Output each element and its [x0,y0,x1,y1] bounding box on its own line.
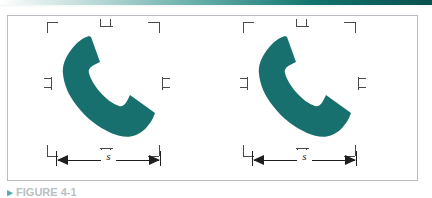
page-top-rule-shadow [0,5,432,8]
registration-area [56,28,161,140]
dimension-line: s [56,151,161,169]
caption-text: FIGURE 4-1 [16,188,77,198]
telephone-handset-icon [254,32,355,140]
dimension-label: s [297,150,311,163]
figure-caption: ▸ FIGURE 4-1 [7,188,307,198]
dimension-label-wrap: s [56,150,161,163]
dimension-line: s [252,151,357,169]
figure-panel-left: s [28,24,183,174]
figure-frame: s s [7,15,418,181]
telephone-handset-icon [58,32,159,140]
caption-bullet-icon: ▸ [7,188,13,198]
registration-area [252,28,357,140]
dimension-label: s [101,150,115,163]
dimension-label-wrap: s [252,150,357,163]
figure-panel-right: s [224,24,379,174]
